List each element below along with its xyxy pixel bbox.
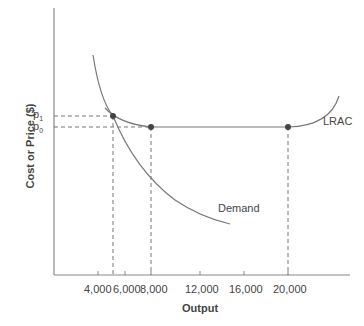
x-tick-label-16000: 16,000 bbox=[229, 283, 263, 295]
x-axis-label: Output bbox=[182, 302, 218, 314]
guide-lines bbox=[54, 116, 288, 275]
chart-canvas bbox=[0, 0, 364, 326]
point-intersection bbox=[110, 113, 116, 119]
lrac-curve bbox=[105, 96, 339, 127]
x-tick-label-8000: 8,000 bbox=[140, 283, 168, 295]
x-tick-label-12000: 12,000 bbox=[185, 283, 219, 295]
point-8000 bbox=[148, 124, 154, 130]
lrac-label: LRAC bbox=[323, 115, 352, 127]
x-tick-label-4000: 4,000 bbox=[84, 283, 112, 295]
tick-label-p0: p0 bbox=[33, 120, 43, 134]
demand-label: Demand bbox=[218, 202, 260, 214]
p0-subscript: 0 bbox=[39, 127, 43, 134]
x-tick-label-20000: 20,000 bbox=[273, 283, 307, 295]
x-tick-label-6000: 6,000 bbox=[113, 283, 141, 295]
demand-curve bbox=[93, 55, 230, 224]
point-20000 bbox=[285, 124, 291, 130]
